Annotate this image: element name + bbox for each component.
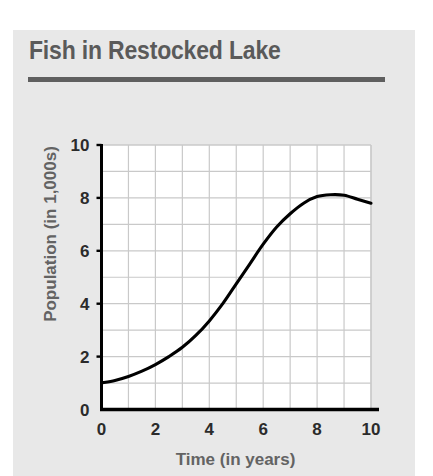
plot-area-wrapper: Population (in 1,000s) Time (in years) 0… <box>13 92 415 476</box>
chart-card: Fish in Restocked Lake Population (in 1,… <box>13 30 415 476</box>
title-divider <box>28 77 385 82</box>
svg-text:10: 10 <box>362 420 381 439</box>
svg-text:10: 10 <box>71 136 90 155</box>
svg-text:4: 4 <box>205 420 215 439</box>
svg-text:8: 8 <box>80 189 89 208</box>
svg-text:2: 2 <box>151 420 160 439</box>
svg-text:6: 6 <box>258 420 267 439</box>
svg-text:0: 0 <box>80 401 89 420</box>
svg-text:6: 6 <box>80 242 89 261</box>
y-tick-labels: 0246810 <box>71 136 90 420</box>
svg-text:0: 0 <box>97 420 106 439</box>
line-chart-svg: 0246810 0246810 <box>13 92 415 476</box>
x-tick-labels: 0246810 <box>97 420 381 439</box>
chart-figure: Fish in Restocked Lake Population (in 1,… <box>0 0 433 476</box>
svg-text:8: 8 <box>312 420 321 439</box>
svg-text:4: 4 <box>80 295 90 314</box>
chart-title: Fish in Restocked Lake <box>29 35 281 65</box>
svg-text:2: 2 <box>80 348 89 367</box>
